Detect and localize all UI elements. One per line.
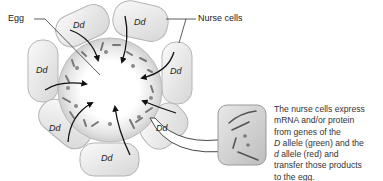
nurse-cells-label: Nurse cells [198, 13, 243, 23]
caption-text: allele (green) and the [280, 138, 364, 148]
nurse-cell-genotype: Dd [73, 20, 85, 30]
nurse-cell-genotype: Dd [170, 66, 182, 76]
egg-label: Egg [8, 13, 24, 23]
caption-line: to the egg. [274, 172, 383, 181]
nurse-cell-genotype: Dd [101, 153, 113, 163]
caption-line: transfer those products [274, 160, 383, 171]
nurse-cell-genotype: Dd [49, 123, 61, 133]
nurse-cell-genotype: Dd [134, 17, 146, 27]
nurse-cell-genotype: Dd [36, 65, 48, 75]
nurse-cells-leader-line [166, 19, 186, 43]
nurse-cell-genotype: Dd [156, 123, 168, 133]
caption-line: mRNA and/or protein [274, 115, 383, 126]
caption-line: from genes of the [274, 127, 383, 138]
caption-line: D allele (green) and the [274, 138, 383, 149]
caption-line: The nurse cells express [274, 104, 383, 115]
inset-zoom-box [218, 105, 266, 165]
egg-cell [58, 38, 162, 142]
caption: The nurse cells express mRNA and/or prot… [274, 104, 383, 181]
caption-line: d allele (red) and [274, 149, 383, 160]
caption-text: allele (red) and [279, 149, 339, 159]
